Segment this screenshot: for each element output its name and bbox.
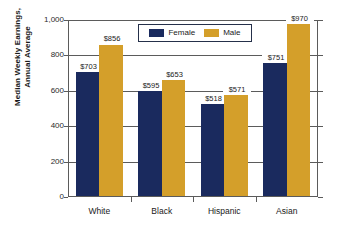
bar-value-label: $653 bbox=[161, 71, 189, 79]
bar-value-label: $970 bbox=[286, 15, 314, 23]
legend-label-female: Female bbox=[168, 29, 195, 37]
y-axis-tick-label: 800 bbox=[51, 51, 64, 59]
legend-label-male: Male bbox=[223, 29, 240, 37]
bar-white-female bbox=[76, 72, 100, 196]
bar-value-label: $571 bbox=[223, 86, 251, 94]
y-axis-tick-label: 400 bbox=[51, 122, 64, 130]
y-axis-tick bbox=[64, 20, 68, 21]
y-axis-tick-label: 600 bbox=[51, 87, 64, 95]
legend-swatch-female-icon bbox=[149, 29, 164, 37]
y-axis-line-right bbox=[317, 20, 318, 197]
y-axis-tick bbox=[64, 55, 68, 56]
y-axis-tick bbox=[64, 162, 68, 163]
bar-hispanic-male bbox=[224, 95, 248, 196]
bar-chart: Median Weekly Earnings, Annual Average 0… bbox=[0, 0, 340, 227]
bar-hispanic-female bbox=[201, 104, 225, 196]
y-axis-tick bbox=[64, 126, 68, 127]
legend-entry-female: Female bbox=[149, 29, 195, 37]
x-axis-label-asian: Asian bbox=[247, 206, 327, 216]
x-axis-separator-tick bbox=[256, 197, 257, 202]
y-axis-title-line-2: Annual Average bbox=[23, 0, 33, 142]
x-axis-separator-tick bbox=[193, 197, 194, 202]
y-axis-tick bbox=[64, 197, 68, 198]
gridline bbox=[68, 20, 318, 21]
bar-black-female bbox=[138, 91, 162, 196]
y-axis-tick-label: 200 bbox=[51, 158, 64, 166]
plot-area: $703$856$595$653$518$571$751$970 bbox=[68, 20, 318, 197]
y-axis-tick-right bbox=[318, 162, 323, 163]
legend-swatch-male-icon bbox=[204, 29, 219, 37]
y-axis-tick-label: 1,000 bbox=[44, 16, 64, 24]
bar-black-male bbox=[162, 80, 186, 196]
y-axis-tick-right bbox=[318, 197, 323, 198]
y-axis-tick-right bbox=[318, 20, 323, 21]
y-axis-title: Median Weekly Earnings, Annual Average bbox=[13, 0, 33, 142]
bar-asian-female bbox=[263, 63, 287, 196]
bar-value-label: $856 bbox=[98, 35, 126, 43]
y-axis-line bbox=[68, 20, 69, 197]
bar-white-male bbox=[99, 45, 123, 197]
y-axis-tick-right bbox=[318, 126, 323, 127]
legend-entry-male: Male bbox=[204, 29, 240, 37]
chart-legend: Female Male bbox=[138, 24, 252, 42]
x-axis-separator-tick bbox=[131, 197, 132, 202]
bar-asian-male bbox=[287, 24, 311, 196]
y-axis-title-line-1: Median Weekly Earnings, bbox=[13, 0, 23, 142]
y-axis-tick-right bbox=[318, 91, 323, 92]
y-axis-tick bbox=[64, 91, 68, 92]
y-axis-tick-right bbox=[318, 55, 323, 56]
